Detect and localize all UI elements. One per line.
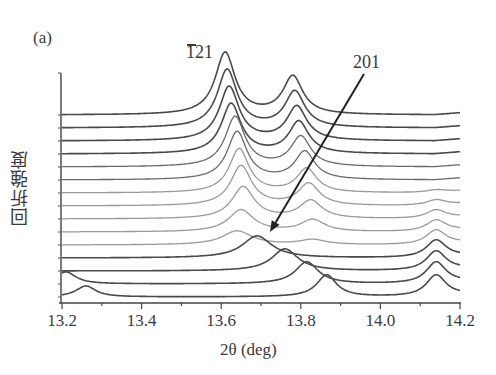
curve-4: [62, 103, 460, 154]
annotation-201: 201: [353, 52, 380, 73]
panel-label: (a): [33, 28, 52, 48]
arrow-head-icon: [270, 220, 279, 232]
x-tick-label: 13.4: [127, 311, 157, 331]
x-tick-label: 13.2: [47, 311, 77, 331]
x-tick-label: 13.6: [206, 311, 236, 331]
curve-group: [62, 52, 460, 297]
curve-9: [62, 186, 460, 219]
curve-2: [62, 69, 460, 128]
curve-5: [62, 116, 460, 167]
curve-14: [62, 262, 460, 284]
x-tick-label: 13.8: [286, 311, 316, 331]
curve-15: [62, 275, 460, 297]
y-axis-label: 回折強度: [8, 150, 34, 226]
curve-8: [62, 165, 460, 206]
x-axis-label: 2θ (deg): [220, 340, 277, 360]
curve-7: [62, 148, 460, 192]
x-tick-label: 14.0: [366, 311, 396, 331]
overbar: [187, 44, 196, 46]
curve-10: [62, 210, 460, 232]
x-tick-label: 14.2: [445, 311, 475, 331]
curve-1: [62, 52, 460, 115]
curve-13: [62, 249, 460, 271]
annotation-121: 121: [186, 42, 213, 63]
